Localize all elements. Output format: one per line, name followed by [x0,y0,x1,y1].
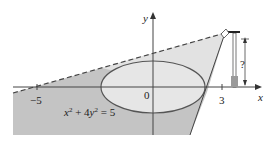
lamp-post [221,29,240,87]
x-axis-arrow-icon [255,84,262,90]
origin-label: 0 [144,89,150,101]
lamp-shadow-diagram: y x 0 −5 3 ? x2 + 4y2 = 5 [0,0,270,141]
height-question-label: ? [240,58,245,70]
tick-label-neg5: −5 [30,94,42,106]
x-axis-label: x [257,91,263,103]
tick-label-3: 3 [219,94,225,106]
y-axis-label: y [142,12,148,24]
y-axis-arrow-icon [150,12,156,19]
